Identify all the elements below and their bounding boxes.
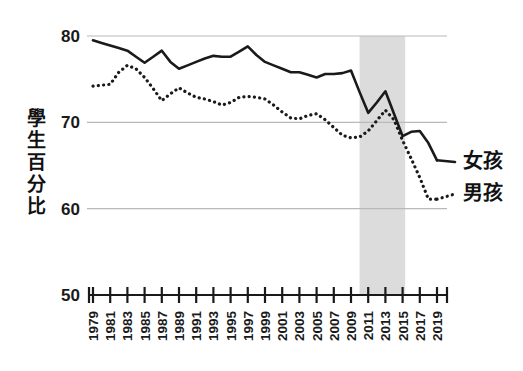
highlight-band [360,36,406,295]
y-axis-title-char: 比 [27,196,46,217]
shaded-period-band [360,36,406,295]
x-tick-label-2015: 2015 [396,311,411,342]
x-tick-label-2003: 2003 [292,311,307,342]
x-tick-label-1983: 1983 [120,311,135,342]
y-tick-label-80: 80 [61,27,80,46]
x-tick-label-1993: 1993 [206,311,221,342]
y-tick-label-50: 50 [61,286,80,305]
y-axis-title: 學生百分比 [27,108,46,217]
x-tick-label-2009: 2009 [344,311,359,341]
x-tick-label-1997: 1997 [241,311,256,341]
chart-container: 80706050 1979198119831985198719891991199… [0,0,523,371]
x-tick-label-1985: 1985 [138,311,153,342]
x-tick-label-1995: 1995 [224,311,239,342]
legend-label-girls: 女孩 [463,149,503,172]
y-axis-title-char: 分 [27,174,46,195]
y-axis-title-char: 百 [27,152,46,173]
x-tick-label-1999: 1999 [258,311,273,341]
line-chart: 80706050 1979198119831985198719891991199… [0,0,523,371]
x-tick-label-2005: 2005 [310,311,325,342]
x-tick-label-2019: 2019 [430,311,445,341]
x-tick-label-1989: 1989 [172,311,187,341]
y-tick-label-70: 70 [61,113,80,132]
legend-label-boys: 男孩 [463,181,503,204]
x-tick-label-2017: 2017 [413,311,428,341]
x-tick-label-2013: 2013 [378,311,393,342]
y-tick-label-60: 60 [61,200,80,219]
x-tick-label-1979: 1979 [86,311,101,341]
x-tick-label-1987: 1987 [155,311,170,341]
y-axis-title-char: 生 [27,129,46,151]
x-tick-label-1991: 1991 [189,311,204,342]
x-tick-label-2011: 2011 [361,311,376,341]
legend-connector-girls [437,160,455,162]
y-axis-title-char: 學 [27,108,46,129]
x-tick-label-2007: 2007 [327,311,342,341]
x-tick-label-2001: 2001 [275,311,290,342]
x-tick-label-1981: 1981 [103,311,118,342]
x-axis-tick-labels: 1979198119831985198719891991199319951997… [86,311,445,342]
